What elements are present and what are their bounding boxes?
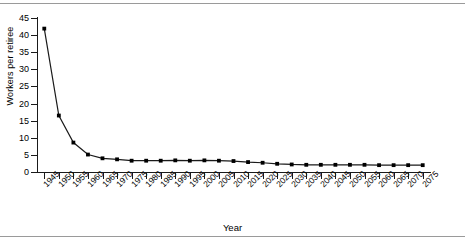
series-marker: [144, 159, 148, 163]
series-marker: [232, 159, 236, 163]
y-axis-tick-label: 40: [3, 30, 29, 40]
series-marker: [115, 157, 119, 161]
y-axis-tick-label: 20: [3, 99, 29, 109]
data-series-line: [37, 18, 431, 174]
series-marker: [348, 163, 352, 167]
series-marker: [57, 114, 61, 118]
series-polyline: [44, 29, 422, 166]
series-marker: [304, 163, 308, 167]
series-marker: [406, 163, 410, 167]
chart-figure: Workers per retiree 051015202530354045 1…: [0, 4, 465, 235]
series-marker: [290, 163, 294, 167]
series-marker: [275, 162, 279, 166]
series-marker: [188, 159, 192, 163]
series-marker: [377, 163, 381, 167]
x-axis-title: Year: [0, 222, 465, 233]
y-axis-tick-label: 5: [3, 150, 29, 160]
series-marker: [421, 163, 425, 167]
y-axis-tick-label: 15: [3, 116, 29, 126]
y-axis-tick-label: 0: [3, 167, 29, 177]
y-axis-tick-label: 35: [3, 47, 29, 57]
y-axis-tick-label: 45: [3, 13, 29, 23]
series-marker: [173, 158, 177, 162]
series-marker: [71, 141, 75, 145]
series-marker: [333, 163, 337, 167]
y-axis-tick-label: 25: [3, 81, 29, 91]
series-marker: [202, 158, 206, 162]
series-marker: [246, 160, 250, 164]
series-marker: [217, 159, 221, 163]
series-marker: [101, 156, 105, 160]
y-axis-tick-label: 10: [3, 133, 29, 143]
series-marker: [159, 159, 163, 163]
series-marker: [392, 163, 396, 167]
series-marker: [261, 161, 265, 165]
bottom-divider-rule: [0, 236, 465, 237]
series-marker: [363, 163, 367, 167]
series-marker: [86, 153, 90, 157]
series-marker: [130, 159, 134, 163]
series-marker: [42, 27, 46, 31]
series-marker: [319, 163, 323, 167]
y-axis-tick-label: 30: [3, 64, 29, 74]
